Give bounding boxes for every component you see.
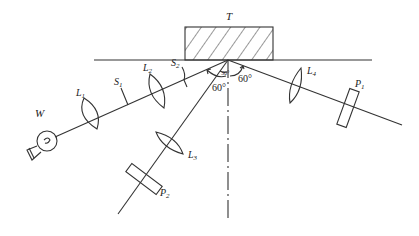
lens-l3 — [156, 132, 183, 154]
angle-30-label: 30° — [221, 70, 230, 76]
slit-s2 — [182, 67, 187, 87]
source-label: W — [35, 107, 45, 119]
lens-l4-label: L4 — [306, 65, 317, 78]
lens-l2 — [149, 74, 165, 108]
polarizer-p2 — [126, 164, 162, 195]
angle-60-right-label: 60° — [238, 73, 252, 84]
lens-l3-label: L3 — [187, 149, 198, 162]
target-sample — [185, 27, 273, 60]
optical-diagram: T W L1 S1 L2 S2 30° 60° 60° L4 — [0, 0, 419, 236]
lamp-icon — [27, 131, 57, 160]
slit-s1 — [121, 88, 128, 105]
angle-60-left-label: 60° — [212, 82, 226, 93]
polarizer-p1-label: P1 — [354, 78, 365, 91]
target-label: T — [226, 10, 233, 22]
polarizer-p2-label: P2 — [159, 187, 170, 200]
lens-l1-label: L1 — [75, 87, 85, 100]
slit-s1-label: S1 — [114, 76, 123, 89]
slit-s2-label: S2 — [171, 57, 180, 70]
lens-l2-label: L2 — [142, 62, 153, 75]
